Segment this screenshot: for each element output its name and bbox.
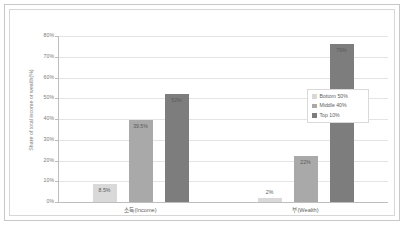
- y-axis-tick-label: 60%: [24, 75, 54, 80]
- x-axis-category-label: 소득(Income): [124, 206, 156, 214]
- bar-middle-40-wealth[interactable]: 22%: [294, 156, 318, 202]
- legend-item-bottom-50[interactable]: Bottom 50%: [312, 93, 364, 100]
- bar-value-label: 8.5%: [99, 188, 111, 193]
- legend-swatch-top-10: [312, 113, 317, 118]
- legend-swatch-bottom-50: [312, 94, 317, 99]
- bar-value-label: 52%: [171, 98, 181, 103]
- x-axis-line: [58, 202, 388, 203]
- bar-value-label: 39.5%: [133, 124, 148, 129]
- bar-top-10-wealth[interactable]: 76%: [330, 44, 354, 202]
- y-axis-tick-label: 30%: [24, 137, 54, 142]
- bar-value-label: 76%: [336, 48, 346, 53]
- y-axis-tick-label: 0%: [24, 199, 54, 204]
- x-axis-category-label: 부(Wealth): [292, 206, 318, 214]
- y-axis-tick-label: 70%: [24, 54, 54, 59]
- legend-label-top-10: Top 10%: [320, 113, 340, 118]
- y-axis-tick-label: 10%: [24, 178, 54, 183]
- legend-swatch-middle-40: [312, 104, 317, 109]
- y-axis-tick-label: 40%: [24, 116, 54, 121]
- bar-value-label: 2%: [266, 190, 274, 195]
- figure-inner-border: Share of total income or wealth(%) 80%70…: [9, 9, 395, 216]
- bar-bottom-50-wealth[interactable]: 2%: [258, 198, 282, 202]
- legend-label-middle-40: Middle 40%: [320, 103, 347, 108]
- y-axis-tick-label: 80%: [24, 33, 54, 38]
- bar-middle-40-income[interactable]: 39.5%: [129, 120, 153, 202]
- chart-legend[interactable]: Bottom 50% Middle 40% Top 10%: [307, 89, 369, 123]
- y-axis-tick-label: 50%: [24, 95, 54, 100]
- bar-top-10-income[interactable]: 52%: [165, 94, 189, 202]
- legend-item-top-10[interactable]: Top 10%: [312, 112, 364, 119]
- bar-bottom-50-income[interactable]: 8.5%: [93, 184, 117, 202]
- bar-value-label: 22%: [300, 160, 310, 165]
- y-axis-tick-label: 20%: [24, 158, 54, 163]
- legend-label-bottom-50: Bottom 50%: [320, 94, 348, 99]
- chart-figure: Share of total income or wealth(%) 80%70…: [0, 0, 404, 225]
- legend-item-middle-40[interactable]: Middle 40%: [312, 103, 364, 110]
